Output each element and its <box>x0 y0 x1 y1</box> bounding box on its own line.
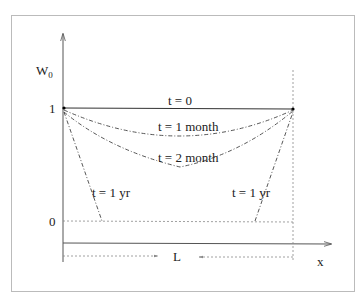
label-t1-yr-left: t = 1 yr <box>92 185 131 200</box>
y-axis-label: W0 <box>36 63 53 80</box>
x-axis <box>63 243 331 244</box>
span-label: L <box>173 249 181 264</box>
y-tick-1: 1 <box>49 101 56 116</box>
diagram-canvas: W0 1 0 x L t = 0 t = 1 month t = 2 month… <box>0 0 363 303</box>
curve-t1-yr-left <box>64 112 102 221</box>
label-t1-yr-right: t = 1 yr <box>232 185 271 200</box>
x-axis-label: x <box>317 254 324 269</box>
label-t0: t = 0 <box>168 93 192 108</box>
label-t2-month: t = 2 month <box>158 150 219 165</box>
curve-t1-yr-right <box>255 112 293 221</box>
zero-level-line <box>63 221 293 222</box>
endpoint-left <box>62 106 65 109</box>
y-tick-0: 0 <box>49 214 56 229</box>
curve-t0 <box>63 108 293 109</box>
label-t1-month: t = 1 month <box>158 119 219 134</box>
